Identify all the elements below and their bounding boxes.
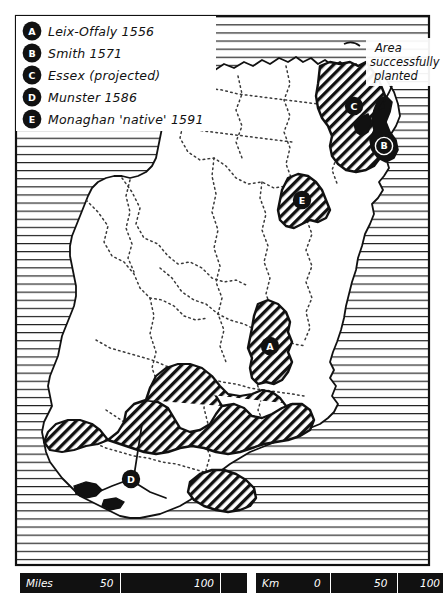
map-badge-E: E xyxy=(293,191,311,209)
map-badge-E-letter: E xyxy=(299,195,306,206)
scale-km-tick-50: 50 xyxy=(374,577,388,589)
legend-badge-A: A xyxy=(28,26,36,37)
annotation-line-3: planted xyxy=(373,69,418,83)
plantation-map-figure: C B E A D Area successfully planted A xyxy=(0,0,445,606)
map-badge-C-letter: C xyxy=(351,101,358,112)
map-badge-B: B xyxy=(375,137,392,154)
legend-label-A: Leix-Offaly 1556 xyxy=(48,24,154,39)
map-badge-A: A xyxy=(261,337,279,355)
legend-badge-B: B xyxy=(28,48,35,59)
scale-km-tick-0: 0 xyxy=(314,577,321,589)
map-badge-A-letter: A xyxy=(266,341,274,352)
map-badge-D-letter: D xyxy=(127,474,135,485)
scale-bar-km: Km 0 50 100 xyxy=(256,573,443,593)
scale-bars: Miles 50 100 Km 0 50 100 xyxy=(20,573,443,593)
legend-badge-E: E xyxy=(29,114,36,125)
scale-km-unit: Km xyxy=(262,577,279,589)
map-badge-B-letter: B xyxy=(380,140,387,151)
scale-miles-unit: Miles xyxy=(26,577,53,589)
legend-label-D: Munster 1586 xyxy=(48,90,137,105)
map-canvas: C B E A D Area successfully planted A xyxy=(0,0,445,606)
annotation-line-2: successfully xyxy=(370,55,440,69)
legend-label-C: Essex (projected) xyxy=(48,68,160,83)
plantation-legend: A Leix-Offaly 1556 B Smith 1571 C Essex … xyxy=(16,16,216,131)
legend-label-E: Monaghan 'native' 1591 xyxy=(48,112,204,127)
legend-badge-D: D xyxy=(28,92,36,103)
map-badge-C: C xyxy=(345,97,363,115)
legend-item-B[interactable]: B Smith 1571 xyxy=(23,44,123,63)
map-badge-D: D xyxy=(122,470,140,488)
scale-bar-miles: Miles 50 100 xyxy=(20,573,247,593)
scale-miles-tick-100: 100 xyxy=(194,577,214,589)
legend-item-E[interactable]: E Monaghan 'native' 1591 xyxy=(23,110,204,129)
legend-badge-C: C xyxy=(29,70,36,81)
scale-miles-tick-50: 50 xyxy=(100,577,114,589)
annotation-line-1: Area xyxy=(374,41,402,55)
legend-label-B: Smith 1571 xyxy=(48,46,122,61)
scale-km-tick-100: 100 xyxy=(420,577,440,589)
